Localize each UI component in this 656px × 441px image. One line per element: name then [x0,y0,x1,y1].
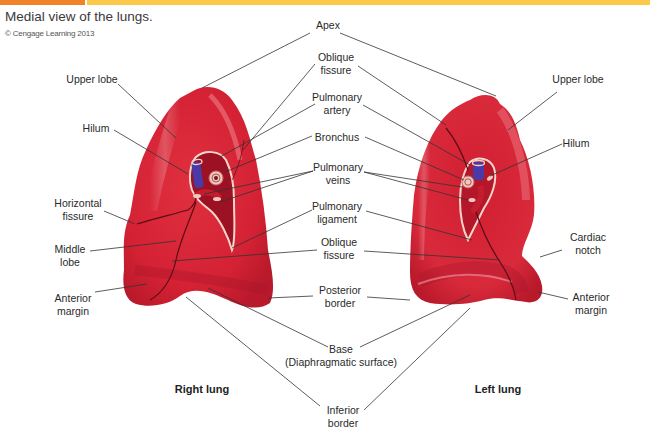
label-horizontal-fissure: Horizontal fissure [54,197,101,223]
label-line: Anterior [55,292,92,305]
label-right-hilum: Hilum [83,122,110,135]
right-lung-title: Right lung [175,383,229,395]
label-line: ligament [312,213,362,226]
label-inferior-border: Inferior border [327,404,360,430]
label-line: Pulmonary [312,200,362,213]
left-bronchus [462,176,474,188]
label-left-upper-lobe: Upper lobe [552,73,603,86]
label-line: artery [312,104,362,117]
label-line: border [327,417,360,430]
label-line: Base [285,343,397,356]
label-line: Oblique [321,236,357,249]
label-base: Base (Diaphragmatic surface) [285,343,397,369]
label-oblique-fissure-bottom: Oblique fissure [321,236,357,262]
label-line: border [319,297,361,310]
label-line: Middle [55,243,86,256]
left-lung-title: Left lung [475,383,521,395]
label-line: Inferior [327,404,360,417]
label-line: Anterior [573,291,610,304]
label-pulmonary-artery: Pulmonary artery [312,91,362,117]
label-line: Pulmonary [312,91,362,104]
label-left-anterior-margin: Anterior margin [573,291,610,317]
label-cardiac-notch: Cardiac notch [570,231,606,257]
label-line: fissure [318,64,354,77]
right-lung [123,87,273,308]
label-middle-lobe: Middle lobe [55,243,86,269]
label-line: notch [570,244,606,257]
label-right-upper-lobe: Upper lobe [66,73,117,86]
label-line: Pulmonary [313,161,363,174]
label-line: margin [55,305,92,318]
label-apex: Apex [316,19,340,32]
label-oblique-fissure-top: Oblique fissure [318,51,354,77]
left-lung [410,95,542,304]
label-right-anterior-margin: Anterior margin [55,292,92,318]
label-line: fissure [54,210,101,223]
label-left-hilum: Hilum [563,137,590,150]
label-line: Cardiac [570,231,606,244]
label-line: (Diaphragmatic surface) [285,356,397,369]
label-posterior-border: Posterior border [319,284,361,310]
label-line: veins [313,174,363,187]
label-line: margin [573,304,610,317]
label-line: Posterior [319,284,361,297]
label-line: Oblique [318,51,354,64]
label-pulmonary-veins: Pulmonary veins [313,161,363,187]
label-pulmonary-ligament: Pulmonary ligament [312,200,362,226]
label-line: lobe [55,256,86,269]
label-bronchus: Bronchus [315,131,359,144]
label-line: fissure [321,249,357,262]
label-line: Horizontal [54,197,101,210]
